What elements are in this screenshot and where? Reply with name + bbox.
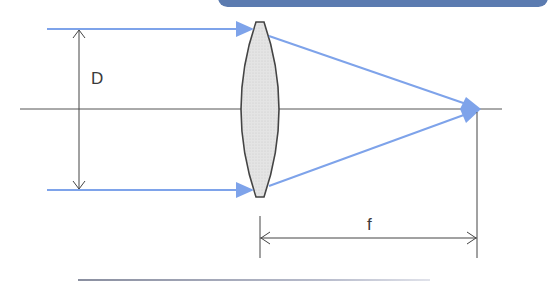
convex-lens [241, 22, 279, 197]
focal-length-dimension [260, 112, 477, 258]
diameter-label: D [91, 69, 103, 89]
incoming-ray-top [47, 21, 254, 37]
refracted-ray-top [269, 36, 472, 106]
refracted-ray-bottom [269, 112, 472, 186]
focal-length-label: f [367, 215, 372, 235]
incoming-ray-bottom [47, 182, 254, 198]
focal-point-icon [460, 97, 481, 123]
